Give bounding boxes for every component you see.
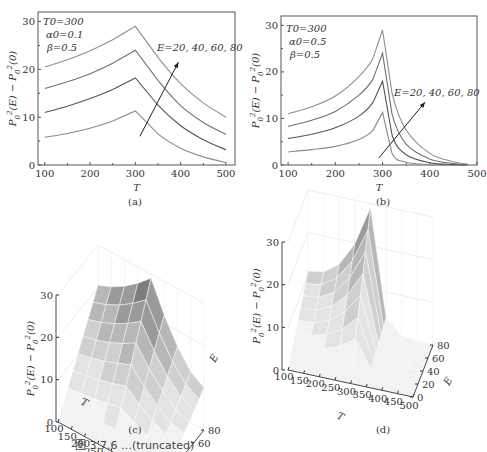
- x-tick-label: 400: [420, 168, 439, 179]
- caption-b: (b): [368, 196, 398, 207]
- y-axis-label: P02(E) − P02(0): [249, 53, 265, 129]
- figure-caption-truncated: 图 3.7.6 …(truncated): [75, 436, 487, 452]
- y-tick-label: 20: [265, 66, 278, 77]
- chart-panel-a: 1002003004005000102030TP02(E) − P02(0)T0…: [0, 0, 244, 222]
- param-beta: β=0.5: [46, 42, 77, 53]
- x-axis-label: T: [376, 182, 384, 193]
- x-tick-label: 200: [326, 168, 345, 179]
- param-beta: β=0.5: [289, 49, 320, 60]
- param-alpha0: α0=0.1: [46, 29, 83, 40]
- E-tick-label: 0: [417, 392, 423, 403]
- E-tick-label: 60: [432, 353, 445, 364]
- y-tick-label: 10: [22, 112, 35, 123]
- chart-panel-d: 0102030100150200250300350400450500020406…: [244, 222, 487, 422]
- x-tick-label: 100: [279, 168, 298, 179]
- T-axis-label: T: [335, 410, 347, 423]
- z-tick-label: 30: [40, 290, 53, 301]
- chart-panel-c: 0102030100150200250300350400450500020406…: [0, 222, 244, 422]
- z-tick-label: 10: [266, 322, 279, 333]
- caption-c: (c): [120, 424, 150, 435]
- y-tick-label: 10: [265, 113, 278, 124]
- x-tick-label: 400: [171, 168, 190, 179]
- y-tick-label: 20: [22, 64, 35, 75]
- x-tick-label: 500: [467, 168, 486, 179]
- E-tick-label: 80: [437, 340, 450, 351]
- chart-panel-b: 1002003004005000102030TP02(E) − P02(0)T0…: [244, 0, 487, 222]
- param-alpha0: α0=0.5: [289, 36, 326, 47]
- increase-arrow: [379, 102, 425, 158]
- param-T0: T0=300: [43, 16, 84, 27]
- E-values-label: E=20, 40, 60, 80: [393, 87, 480, 98]
- x-tick-label: 300: [126, 168, 145, 179]
- z-tick-label: 10: [40, 374, 53, 385]
- caption-a: (a): [120, 196, 150, 207]
- E-values-label: E=20, 40, 60, 80: [156, 42, 243, 53]
- x-axis-label: T: [133, 182, 141, 193]
- series-line-E-60: [45, 50, 226, 134]
- series-line-E-60: [288, 53, 467, 164]
- E-axis-label: E: [207, 352, 221, 365]
- line-chart-a: 1002003004005000102030TP02(E) − P02(0)T0…: [0, 0, 244, 222]
- surface-chart-d: 0102030100150200250300350400450500020406…: [244, 222, 487, 422]
- y-tick-label: 0: [29, 160, 35, 171]
- y-tick-label: 0: [272, 160, 278, 171]
- T-tick-label: 500: [399, 400, 418, 411]
- param-T0: T0=300: [286, 23, 327, 34]
- E-tick-label: 20: [422, 379, 435, 390]
- x-tick-label: 500: [216, 168, 235, 179]
- y-tick-label: 30: [22, 16, 35, 27]
- line-chart-b: 1002003004005000102030TP02(E) − P02(0)T0…: [244, 0, 487, 222]
- series-line-E-20: [288, 112, 467, 165]
- x-tick-label: 300: [373, 168, 392, 179]
- x-tick-label: 100: [35, 168, 54, 179]
- increase-arrow: [140, 62, 178, 136]
- surface-chart-c: 0102030100150200250300350400450500020406…: [0, 222, 244, 422]
- caption-d: (d): [368, 424, 398, 435]
- series-line-E-40: [45, 78, 226, 150]
- y-tick-label: 30: [265, 20, 278, 31]
- surface: [288, 208, 433, 397]
- E-tick-label: 40: [427, 366, 440, 377]
- E-tick-label: 80: [208, 425, 221, 436]
- E-axis-label: E: [441, 375, 455, 388]
- z-axis-label: P02(E) − P02(0): [24, 321, 40, 397]
- z-tick-label: 20: [40, 332, 53, 343]
- z-axis-label: P02(E) − P02(0): [250, 268, 266, 344]
- z-tick-label: 30: [266, 237, 279, 248]
- y-axis-label: P02(E) − P02(0): [6, 51, 22, 127]
- x-tick-label: 200: [81, 168, 100, 179]
- z-tick-label: 20: [266, 279, 279, 290]
